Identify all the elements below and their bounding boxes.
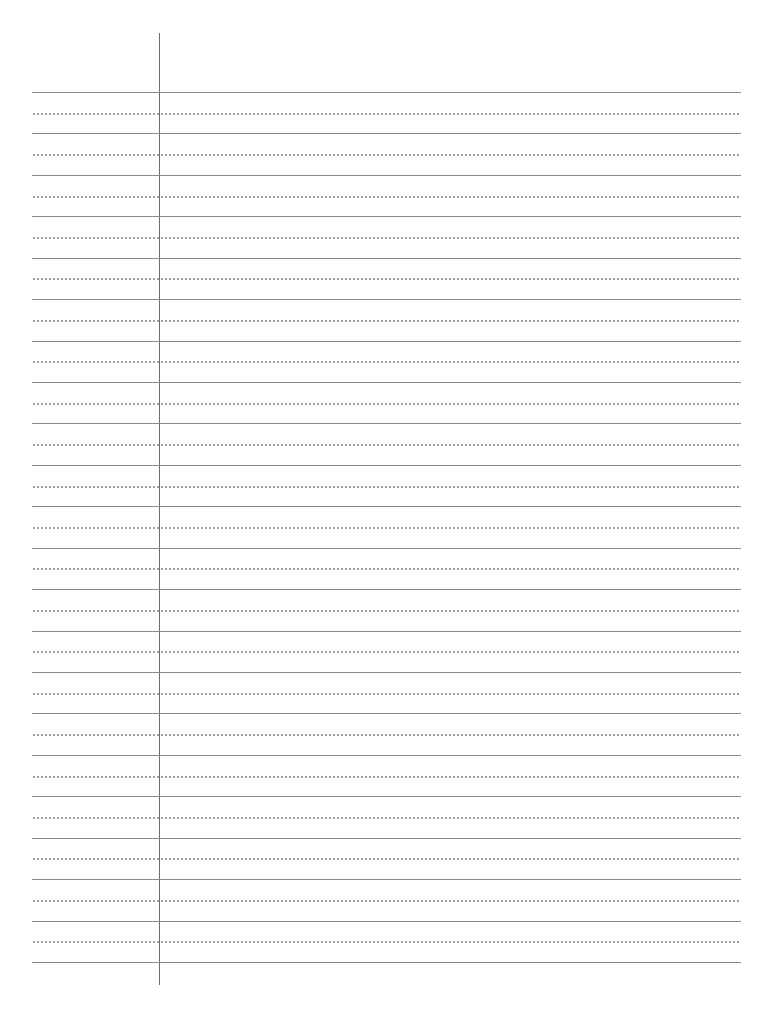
- dotted-midline: [32, 817, 741, 819]
- dotted-midline: [32, 361, 741, 363]
- solid-rule-line: [32, 258, 741, 259]
- lined-paper-page: [0, 0, 774, 1018]
- dotted-midline: [32, 900, 741, 902]
- solid-rule-line: [32, 423, 741, 424]
- solid-rule-line: [32, 465, 741, 466]
- dotted-midline: [32, 278, 741, 280]
- dotted-midline: [32, 941, 741, 943]
- solid-rule-line: [32, 133, 741, 134]
- solid-rule-line: [32, 962, 741, 963]
- solid-rule-line: [32, 879, 741, 880]
- dotted-midline: [32, 113, 741, 115]
- dotted-midline: [32, 734, 741, 736]
- solid-rule-line: [32, 713, 741, 714]
- solid-rule-line: [32, 796, 741, 797]
- dotted-midline: [32, 403, 741, 405]
- dotted-midline: [32, 486, 741, 488]
- solid-rule-line: [32, 299, 741, 300]
- solid-rule-line: [32, 382, 741, 383]
- dotted-midline: [32, 568, 741, 570]
- dotted-midline: [32, 858, 741, 860]
- solid-rule-line: [32, 175, 741, 176]
- dotted-midline: [32, 693, 741, 695]
- solid-rule-line: [32, 506, 741, 507]
- solid-rule-line: [32, 92, 741, 93]
- solid-rule-line: [32, 672, 741, 673]
- solid-rule-line: [32, 216, 741, 217]
- solid-rule-line: [32, 631, 741, 632]
- dotted-midline: [32, 237, 741, 239]
- dotted-midline: [32, 154, 741, 156]
- solid-rule-line: [32, 755, 741, 756]
- dotted-midline: [32, 776, 741, 778]
- dotted-midline: [32, 651, 741, 653]
- solid-rule-line: [32, 548, 741, 549]
- solid-rule-line: [32, 921, 741, 922]
- solid-rule-line: [32, 341, 741, 342]
- dotted-midline: [32, 527, 741, 529]
- dotted-midline: [32, 320, 741, 322]
- solid-rule-line: [32, 589, 741, 590]
- dotted-midline: [32, 196, 741, 198]
- dotted-midline: [32, 444, 741, 446]
- dotted-midline: [32, 610, 741, 612]
- solid-rule-line: [32, 838, 741, 839]
